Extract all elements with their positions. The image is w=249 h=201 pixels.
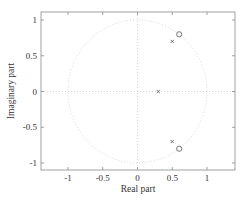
y-tick-label: 0 <box>33 87 38 97</box>
y-tick-label: -1 <box>30 158 38 168</box>
x-tick-label: -0.5 <box>96 173 111 183</box>
pole-zero-plot: -1-0.500.5110.50-0.5-1 Real part Imagina… <box>0 0 249 201</box>
x-tick-label: -1 <box>64 173 72 183</box>
y-tick-label: 0.5 <box>26 51 38 61</box>
plot-area <box>41 12 235 170</box>
pole-marker-icon <box>157 90 160 93</box>
axis-ticks: -1-0.500.5110.50-0.5-1 <box>23 12 235 183</box>
x-tick-label: 1 <box>205 173 210 183</box>
pole-marker-icon <box>171 140 174 143</box>
x-axis-label: Real part <box>121 184 156 194</box>
y-tick-label: 1 <box>33 15 38 25</box>
zero-marker-icon <box>177 32 182 37</box>
y-axis-label: Imaginary part <box>6 63 16 120</box>
y-tick-label: -0.5 <box>23 122 38 132</box>
x-tick-label: 0 <box>135 173 140 183</box>
zero-marker-icon <box>177 146 182 151</box>
data-markers <box>157 32 182 152</box>
pole-marker-icon <box>171 40 174 43</box>
x-tick-label: 0.5 <box>167 173 179 183</box>
